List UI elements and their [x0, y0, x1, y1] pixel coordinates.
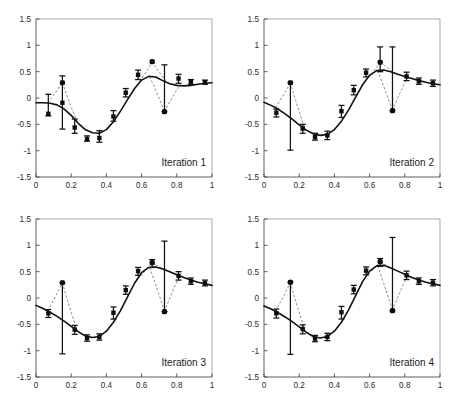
data-point [339, 310, 343, 314]
x-tick-label: 1 [438, 381, 443, 390]
y-tick-label: 0.5 [248, 268, 260, 277]
data-point [176, 76, 180, 80]
outlier-links [275, 62, 407, 129]
y-tick-label: -0.5 [245, 320, 260, 329]
data-point [339, 109, 343, 113]
y-tick-label: 0.5 [20, 68, 32, 77]
data-point [85, 336, 89, 340]
x-axis-ticks: 00.20.40.60.81 [34, 374, 215, 391]
x-tick-label: 0.8 [171, 381, 183, 390]
panel-iteration-2: -1.5-1-0.500.511.500.20.40.60.81Iteratio… [228, 0, 455, 199]
y-tick-label: -1 [252, 347, 260, 356]
data-points [274, 259, 435, 340]
chart-svg: -1.5-1-0.500.511.500.20.40.60.81Iteratio… [228, 0, 455, 199]
y-tick-label: -0.5 [17, 120, 32, 129]
outlier-point [288, 280, 293, 285]
panel-iteration-1: -1.5-1-0.500.511.500.20.40.60.81Iteratio… [0, 0, 227, 199]
y-tick-label: -1.5 [17, 173, 32, 182]
data-point [301, 327, 305, 331]
panel-iteration-4: -1.5-1-0.500.511.500.20.40.60.81Iteratio… [228, 200, 455, 399]
y-tick-label: 0 [26, 94, 31, 103]
data-point [73, 125, 77, 129]
y-tick-label: 1.5 [20, 15, 32, 24]
y-tick-label: 1.5 [248, 15, 260, 24]
x-tick-label: 0.2 [66, 381, 78, 390]
data-point [313, 336, 317, 340]
x-tick-label: 0.8 [171, 181, 183, 190]
data-point [46, 311, 50, 315]
data-point [85, 137, 89, 141]
outlier-point [378, 60, 383, 65]
data-point [404, 74, 408, 78]
data-point [404, 273, 408, 277]
data-point [274, 311, 278, 315]
data-point [189, 79, 193, 83]
y-tick-label: 1 [254, 41, 259, 50]
outlier-point [60, 80, 65, 85]
y-tick-label: -1.5 [17, 373, 32, 382]
outlier-point [390, 308, 395, 313]
data-point [176, 274, 180, 278]
y-tick-label: 1 [254, 241, 259, 250]
x-tick-label: 0.8 [399, 381, 411, 390]
figure-canvas: -1.5-1-0.500.511.500.20.40.60.81Iteratio… [0, 0, 455, 399]
outlier-point [150, 59, 155, 64]
data-point [97, 335, 101, 339]
data-point [417, 279, 421, 283]
y-tick-label: -0.5 [245, 120, 260, 129]
x-tick-label: 0.8 [399, 181, 411, 190]
chart-svg: -1.5-1-0.500.511.500.20.40.60.81Iteratio… [0, 200, 227, 399]
outlier-point [150, 260, 155, 265]
data-point [97, 136, 101, 140]
data-point [301, 126, 305, 130]
x-axis-ticks: 00.20.40.60.81 [262, 374, 443, 391]
x-tick-label: 0.6 [364, 181, 376, 190]
x-tick-label: 0.4 [329, 381, 341, 390]
data-point [352, 88, 356, 92]
outlier-point [288, 80, 293, 85]
outlier-points [60, 59, 167, 114]
data-point [431, 281, 435, 285]
outlier-point [390, 108, 395, 113]
y-tick-label: -0.5 [17, 320, 32, 329]
data-point [325, 133, 329, 137]
data-point [203, 80, 207, 84]
data-point [136, 73, 140, 77]
x-tick-label: 1 [210, 381, 215, 390]
x-tick-label: 0.6 [136, 381, 148, 390]
data-point [46, 112, 50, 116]
iteration-label: Iteration 1 [162, 157, 207, 168]
outlier-points [288, 259, 395, 313]
x-tick-label: 0.6 [136, 181, 148, 190]
y-tick-label: 0 [254, 294, 259, 303]
data-point [352, 287, 356, 291]
data-point [73, 327, 77, 331]
data-point [431, 81, 435, 85]
y-tick-label: 0.5 [20, 268, 32, 277]
data-point [60, 101, 64, 105]
x-tick-label: 0.6 [364, 381, 376, 390]
iteration-label: Iteration 4 [390, 357, 435, 368]
iteration-label: Iteration 3 [162, 357, 207, 368]
data-point [124, 91, 128, 95]
x-axis-ticks: 00.20.40.60.81 [262, 174, 443, 191]
data-point [136, 269, 140, 273]
data-point [417, 79, 421, 83]
y-tick-label: 0 [254, 94, 259, 103]
data-point [111, 114, 115, 118]
data-point [203, 281, 207, 285]
iteration-label: Iteration 2 [390, 157, 435, 168]
y-tick-label: -1.5 [245, 373, 260, 382]
data-point [189, 279, 193, 283]
y-tick-label: 1.5 [248, 215, 260, 224]
data-point [325, 335, 329, 339]
panel-iteration-3: -1.5-1-0.500.511.500.20.40.60.81Iteratio… [0, 200, 227, 399]
y-tick-label: -1 [24, 347, 32, 356]
data-point [274, 111, 278, 115]
data-point [364, 268, 368, 272]
data-point [124, 288, 128, 292]
y-tick-label: 0.5 [248, 68, 260, 77]
outlier-point [162, 309, 167, 314]
x-tick-label: 0.2 [294, 181, 306, 190]
data-point [111, 311, 115, 315]
